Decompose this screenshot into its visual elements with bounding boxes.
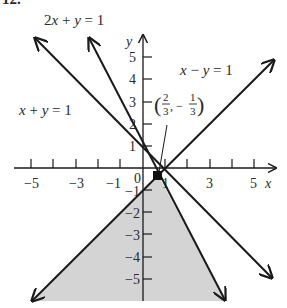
y-tick-label: 3	[129, 95, 136, 110]
x-tick-label: −3	[69, 176, 84, 191]
x-tick-label: −5	[24, 176, 39, 191]
y-tick-label: −4	[125, 250, 140, 265]
graph-figure: 12.	[0, 0, 287, 308]
problem-number: 12.	[2, 0, 21, 8]
x-tick-label: 5	[250, 176, 257, 191]
label-2x-plus-y-eq-1: 2x + y = 1	[44, 12, 104, 28]
y-tick-label: −2	[125, 206, 140, 221]
y-tick-label: 1	[129, 139, 136, 154]
svg-text:(: (	[154, 92, 161, 117]
y-axis-label: y	[124, 34, 133, 49]
y-tick-label: 5	[129, 50, 136, 65]
coordinate-plane: −5 −3 −1 0 1 3 5 x 1 2 3 4 5 −1 −2 −3 −4…	[0, 0, 287, 308]
svg-text:3: 3	[190, 105, 196, 117]
y-tick-label: −3	[125, 228, 140, 243]
x-tick-label: −1	[106, 176, 121, 191]
svg-text:2: 2	[163, 91, 169, 103]
svg-text:1: 1	[190, 91, 196, 103]
x-axis-label: x	[264, 176, 272, 191]
label-intersection-point: ( 2 3 , − 1 3 )	[154, 91, 204, 117]
y-tick-label: −5	[125, 272, 140, 287]
intersection-point	[153, 171, 162, 180]
x-tick-label: 3	[206, 176, 213, 191]
svg-text:): )	[197, 92, 204, 117]
svg-text:3: 3	[163, 105, 169, 117]
label-x-plus-y-eq-1: x + y = 1	[18, 102, 72, 118]
annotation-leader	[159, 125, 167, 172]
label-x-minus-y-eq-1: x − y = 1	[179, 62, 233, 78]
y-tick-label: 4	[129, 72, 136, 87]
svg-text:, −: , −	[170, 99, 183, 113]
